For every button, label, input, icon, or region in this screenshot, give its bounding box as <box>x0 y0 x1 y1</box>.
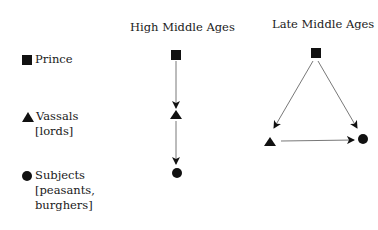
diagram-late-middle-ages <box>264 48 368 146</box>
diagram-high-middle-ages <box>170 50 182 178</box>
vassals-triangle-icon <box>264 137 276 146</box>
arrow-prince-to-vassals <box>274 61 313 128</box>
prince-square-icon <box>171 50 181 60</box>
arrow-prince-to-subjects <box>318 61 357 128</box>
vassals-triangle-icon <box>170 110 182 119</box>
subjects-circle-icon <box>358 134 368 144</box>
hierarchy-diagrams <box>0 0 378 230</box>
prince-square-icon <box>311 48 321 58</box>
arrow-vassals-to-subjects <box>281 140 354 141</box>
subjects-circle-icon <box>172 168 182 178</box>
